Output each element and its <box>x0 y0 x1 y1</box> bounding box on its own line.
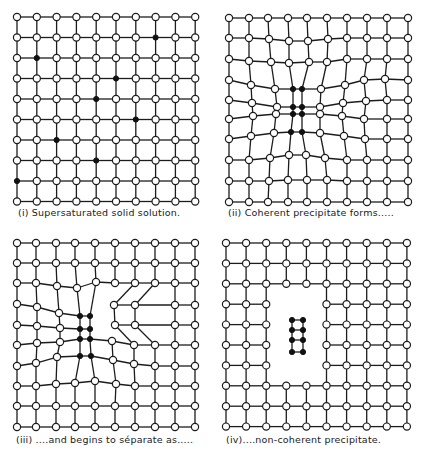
solvent-atom <box>303 260 310 267</box>
solvent-atom <box>191 301 198 308</box>
solvent-atom <box>152 198 159 205</box>
solvent-atom <box>404 135 411 142</box>
solvent-atom <box>222 301 229 308</box>
solvent-atom <box>191 341 198 348</box>
solvent-atom <box>363 239 370 246</box>
solvent-atom <box>363 341 370 348</box>
solvent-atom <box>343 55 350 62</box>
solvent-atom <box>225 115 232 122</box>
solvent-atom <box>317 85 324 92</box>
solvent-atom <box>108 337 115 344</box>
solvent-atom <box>131 321 138 328</box>
solvent-atom <box>283 423 290 430</box>
solvent-atom <box>225 55 232 62</box>
solvent-atom <box>152 54 159 61</box>
solvent-atom <box>52 402 59 409</box>
solvent-atom <box>33 136 40 143</box>
solvent-atom <box>13 95 20 102</box>
solvent-atom <box>222 382 229 389</box>
solvent-atom <box>32 279 39 286</box>
solvent-atom <box>404 14 411 21</box>
solvent-atom <box>152 13 159 20</box>
solvent-atom <box>222 321 229 328</box>
solvent-atom <box>283 260 290 267</box>
precipitate-particle <box>289 317 305 354</box>
solvent-atom <box>363 382 370 389</box>
solvent-atom <box>73 157 80 164</box>
solute-atom <box>299 129 304 134</box>
solvent-atom <box>383 177 390 184</box>
solvent-atom <box>222 403 229 410</box>
solvent-atom <box>172 95 179 102</box>
solvent-atom <box>152 157 159 164</box>
solvent-atom <box>263 362 270 369</box>
solvent-atom <box>152 95 159 102</box>
solvent-atom <box>13 341 20 348</box>
solvent-atom <box>363 362 370 369</box>
solvent-atom <box>55 309 62 316</box>
solvent-atom <box>263 423 270 430</box>
solvent-atom <box>93 75 100 82</box>
solvent-atom <box>265 177 272 184</box>
solvent-atom <box>171 362 178 369</box>
solvent-atom <box>13 321 20 328</box>
solvent-atom <box>403 321 410 328</box>
solvent-atom <box>323 362 330 369</box>
solvent-atom <box>172 13 179 20</box>
solvent-atom <box>32 382 39 389</box>
solute-atom <box>300 317 305 322</box>
solvent-atom <box>404 156 411 163</box>
solvent-atom <box>283 239 290 246</box>
solvent-atom <box>339 99 346 106</box>
panel-i-lattice <box>13 13 198 205</box>
solvent-atom <box>323 301 330 308</box>
solvent-atom <box>225 76 232 83</box>
solvent-atom <box>172 54 179 61</box>
solvent-atom <box>343 341 350 348</box>
solvent-atom <box>192 13 199 20</box>
panel-iii-lattice <box>13 239 198 430</box>
solvent-atom <box>403 341 410 348</box>
solvent-atom <box>151 382 158 389</box>
solvent-atom <box>32 423 39 430</box>
solvent-atom <box>191 321 198 328</box>
solvent-atom <box>112 157 119 164</box>
solvent-atom <box>191 423 198 430</box>
solvent-atom <box>73 34 80 41</box>
solvent-atom <box>343 34 350 41</box>
solvent-atom <box>151 239 158 246</box>
solvent-atom <box>191 402 198 409</box>
solvent-atom <box>243 239 250 246</box>
solvent-atom <box>383 239 390 246</box>
caption-panel-i: (i) Supersaturated solid solution. <box>18 207 180 218</box>
solvent-atom <box>112 54 119 61</box>
solvent-atom <box>93 177 100 184</box>
solvent-atom <box>323 198 330 205</box>
solvent-atom <box>71 402 78 409</box>
solute-atom <box>77 313 82 318</box>
solvent-atom <box>302 151 309 158</box>
solvent-atom <box>172 157 179 164</box>
caption-panel-iv: (iv)....non-coherent precipitate. <box>226 434 381 445</box>
solvent-atom <box>152 75 159 82</box>
solvent-atom <box>171 301 178 308</box>
solvent-atom <box>360 115 367 122</box>
solvent-atom <box>33 198 40 205</box>
solvent-atom <box>132 13 139 20</box>
solvent-atom <box>404 177 411 184</box>
solvent-atom <box>222 362 229 369</box>
solvent-atom <box>33 34 40 41</box>
solvent-atom <box>383 14 390 21</box>
solute-atom <box>290 104 295 109</box>
solute-atom <box>288 129 293 134</box>
solvent-atom <box>264 14 271 21</box>
solvent-atom <box>171 382 178 389</box>
lattice-bonds <box>17 243 195 427</box>
bond <box>135 283 155 305</box>
solvent-atom <box>131 279 138 286</box>
solute-atom <box>300 327 305 332</box>
solvent-atom <box>91 239 98 246</box>
solvent-atom <box>283 280 290 287</box>
solute-atom <box>290 86 295 91</box>
solvent-atom <box>53 75 60 82</box>
